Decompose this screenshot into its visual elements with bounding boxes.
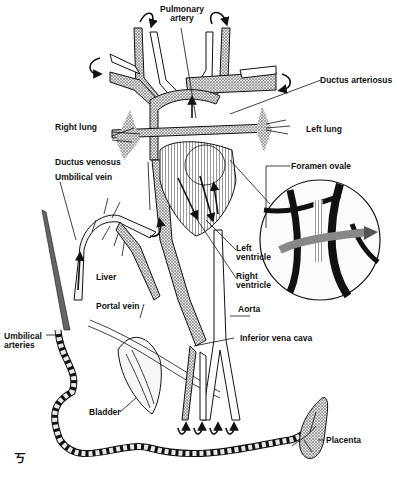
label-right-lung: Right lung <box>55 123 97 132</box>
label-pulmonary-artery-line2: artery <box>158 14 206 23</box>
label-ductus-arteriosus: Ductus arteriosus <box>320 76 392 85</box>
label-umbilical-vein: Umbilical vein <box>55 173 112 182</box>
heart <box>160 100 236 236</box>
fetal-circulation-diagram: Pulmonary artery Ductus arteriosus Right… <box>0 0 397 494</box>
iliac-vessels <box>178 230 240 434</box>
artist-signature: ㄎ <box>14 455 26 464</box>
left-lung-shape <box>256 106 290 152</box>
label-left-lung: Left lung <box>306 125 342 134</box>
label-right-ventricle: Right ventricle <box>236 272 271 290</box>
label-aorta: Aorta <box>238 305 260 314</box>
label-bladder: Bladder <box>89 408 121 417</box>
placenta-shape <box>292 398 328 459</box>
label-foramen-ovale: Foramen ovale <box>291 162 351 171</box>
label-placenta: Placenta <box>326 436 361 445</box>
label-portal-vein: Portal vein <box>96 302 139 311</box>
label-inferior-vena-cava: Inferior vena cava <box>240 334 312 343</box>
label-umbilical-arteries: Umbilical arteries <box>4 332 42 350</box>
label-right-ventricle-line2: ventricle <box>236 281 271 290</box>
label-left-ventricle-line2: ventricle <box>236 253 271 262</box>
label-liver: Liver <box>96 273 116 282</box>
label-ductus-venosus: Ductus venosus <box>55 158 121 167</box>
label-left-ventricle: Left ventricle <box>236 244 271 262</box>
label-pulmonary-artery: Pulmonary artery <box>158 5 206 23</box>
label-umbilical-arteries-line2: arteries <box>4 341 42 350</box>
liver-vessels <box>74 198 161 300</box>
